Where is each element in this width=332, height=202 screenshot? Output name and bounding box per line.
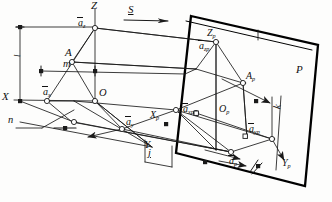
open-nodes: [44, 25, 274, 154]
point-label-Ap: Ap: [246, 71, 255, 81]
S-arrow: [124, 20, 168, 21]
A-connections: [72, 62, 196, 101]
projection-diagram: Z X Y O A az ax ay Zp azp Ap Xp axp Op a…: [0, 0, 332, 202]
vector-label-ax: ax: [43, 87, 51, 97]
diagram-canvas: [0, 0, 332, 202]
point-label-A: A: [65, 47, 72, 58]
annotation-label-n: n: [8, 115, 13, 126]
annotation-label-S: S: [128, 4, 134, 15]
ay-arrow-line: [88, 129, 122, 137]
vector-label-ap: ap: [229, 156, 237, 166]
vector-label-ayp: ayp: [249, 124, 260, 134]
left-bracket: [16, 27, 97, 101]
ax-connections: [20, 28, 95, 122]
plane-axis-label-Xp: Xp: [150, 110, 159, 120]
ap-arrow-group: [205, 150, 246, 166]
vector-label-ay: ay: [126, 117, 134, 127]
plane-axis-label-Zp: Zp: [207, 28, 216, 38]
annotation-label-m: m: [63, 59, 71, 70]
plane-label-P: P: [296, 64, 303, 75]
axis-label-X: X: [2, 91, 9, 102]
annotation-label-j: j: [148, 148, 151, 159]
plane-origin-label-Op: Op: [219, 104, 229, 114]
vector-label-azp: azp: [199, 41, 209, 51]
vector-label-axp: axp: [183, 104, 194, 114]
plane-axis-label-Yp: Yp: [282, 158, 291, 168]
annotation-label-l: l: [13, 54, 22, 57]
axis-label-Z: Z: [91, 0, 97, 11]
az-connections: [72, 28, 216, 62]
origin-label-O: O: [99, 88, 107, 99]
vector-label-az: az: [78, 18, 85, 28]
